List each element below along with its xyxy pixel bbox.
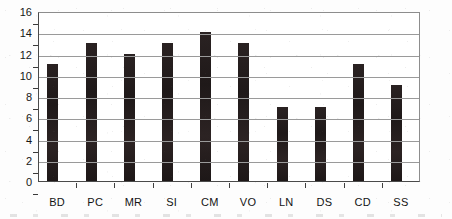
x-tick-label: BD: [37, 196, 77, 208]
x-tick-label: SI: [152, 196, 192, 208]
x-tick-mark: [344, 183, 345, 188]
x-tick-label: CM: [190, 196, 230, 208]
x-axis: BDPCMRSICMVOLNDSCDSS: [0, 12, 452, 219]
bar-chart: 0246810121416 BDPCMRSICMVOLNDSCDSS: [0, 0, 452, 219]
x-tick-label: VO: [228, 196, 268, 208]
x-tick-mark: [114, 183, 115, 188]
x-tick-mark: [229, 183, 230, 188]
x-tick-mark: [382, 183, 383, 188]
x-tick-label: LN: [266, 196, 306, 208]
x-tick-label: MR: [114, 196, 154, 208]
x-tick-mark: [305, 183, 306, 188]
x-tick-label: SS: [381, 196, 421, 208]
x-tick-mark: [267, 183, 268, 188]
x-tick-label: CD: [343, 196, 383, 208]
x-tick-mark: [191, 183, 192, 188]
scan-artifact: [10, 214, 442, 217]
x-tick-mark: [153, 183, 154, 188]
x-tick-label: DS: [305, 196, 345, 208]
x-tick-mark: [76, 183, 77, 188]
x-tick-label: PC: [75, 196, 115, 208]
